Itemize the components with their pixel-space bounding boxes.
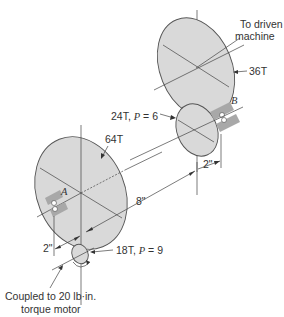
lower-shaft-right [125, 152, 162, 170]
label-motor-1: Coupled to 20 lb·in. [5, 290, 96, 302]
gear-train-diagram: To driven machine 36T 24T, P = 6 64T B A… [0, 0, 284, 317]
label-18t: 18T, P = 9 [116, 244, 163, 256]
leader-motor [50, 267, 62, 288]
label-36t: 36T [249, 65, 268, 77]
label-bearing-a: A [60, 186, 68, 197]
label-24t: 24T, P = 6 [111, 110, 158, 122]
label-driven-2: machine [235, 30, 275, 42]
label-64t: 64T [105, 133, 124, 145]
label-dim-2-right: 2" [203, 158, 213, 170]
label-dim-2-left: 2" [43, 242, 53, 254]
leader-18t [92, 250, 113, 252]
label-driven-1: To driven [240, 18, 283, 30]
label-motor-2: torque motor [21, 303, 81, 315]
gear-64t [18, 123, 143, 305]
label-bearing-b: B [231, 95, 238, 106]
label-dim-8: 8" [136, 195, 146, 207]
